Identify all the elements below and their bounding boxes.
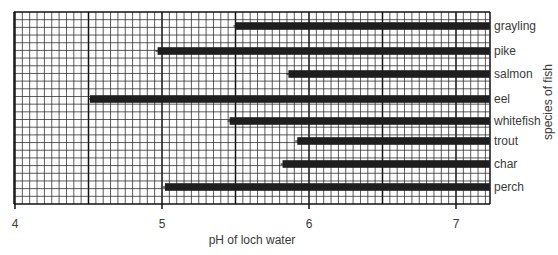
bar-whitefish — [230, 117, 490, 125]
x-tick-label: 5 — [159, 217, 166, 231]
category-label-char: char — [494, 157, 517, 171]
bar-pike — [158, 47, 490, 55]
bar-char — [283, 160, 490, 168]
x-tick-label: 4 — [12, 217, 19, 231]
category-labels: graylingpikesalmoneelwhitefishtroutcharp… — [493, 19, 541, 194]
x-tick-label: 7 — [453, 217, 460, 231]
fish-ph-chart: 4567 graylingpikesalmoneelwhitefishtrout… — [0, 0, 558, 255]
category-label-trout: trout — [494, 134, 519, 148]
category-label-eel: eel — [494, 92, 510, 106]
x-axis: 4567 — [12, 204, 460, 231]
bar-perch — [165, 183, 490, 191]
category-label-perch: perch — [494, 180, 524, 194]
y-axis-title: species of fish — [541, 64, 555, 140]
category-label-salmon: salmon — [494, 67, 533, 81]
graph-paper-grid — [14, 12, 490, 204]
bar-trout — [297, 137, 490, 145]
bar-salmon — [288, 70, 489, 78]
x-tick-label: 6 — [306, 217, 313, 231]
category-label-whitefish: whitefish — [493, 114, 541, 128]
bar-grayling — [236, 22, 490, 30]
category-label-grayling: grayling — [494, 19, 536, 33]
category-label-pike: pike — [494, 44, 516, 58]
bar-eel — [90, 95, 490, 103]
x-axis-title: pH of loch water — [209, 233, 296, 247]
